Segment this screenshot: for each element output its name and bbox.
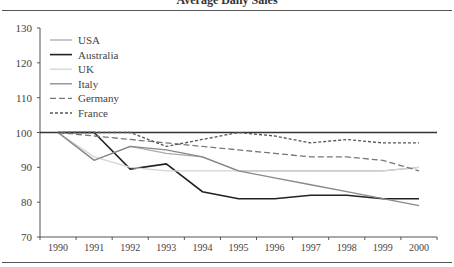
y-tick-label: 90 xyxy=(21,161,33,173)
y-tick-label: 130 xyxy=(16,22,33,34)
x-tick-label: 1992 xyxy=(120,242,140,253)
x-tick-label: 1990 xyxy=(48,242,68,253)
x-tick-label: 1991 xyxy=(84,242,104,253)
x-tick-label: 1994 xyxy=(192,242,212,253)
legend-label: Australia xyxy=(78,49,118,61)
x-tick-label: 1998 xyxy=(337,242,357,253)
y-tick-label: 70 xyxy=(21,231,33,243)
x-tick-label: 1999 xyxy=(373,242,393,253)
x-tick-label: 1996 xyxy=(265,242,285,253)
x-tick-label: 1993 xyxy=(156,242,176,253)
legend-label: Germany xyxy=(78,92,119,104)
x-tick-label: 2000 xyxy=(409,242,429,253)
legend-label: Italy xyxy=(78,78,99,90)
legend-label: UK xyxy=(78,63,94,75)
y-tick-label: 80 xyxy=(21,196,33,208)
series-line-italy xyxy=(58,133,419,206)
y-tick-label: 100 xyxy=(16,127,33,139)
y-tick-label: 110 xyxy=(16,92,33,104)
legend-label: France xyxy=(78,107,108,119)
series-line-france xyxy=(58,133,419,147)
legend-label: USA xyxy=(78,34,100,46)
x-tick-label: 1997 xyxy=(301,242,321,253)
line-chart: 7080901001101201301990199119921993199419… xyxy=(0,0,454,267)
x-tick-label: 1995 xyxy=(229,242,249,253)
series-line-australia xyxy=(58,133,419,199)
y-tick-label: 120 xyxy=(16,57,33,69)
